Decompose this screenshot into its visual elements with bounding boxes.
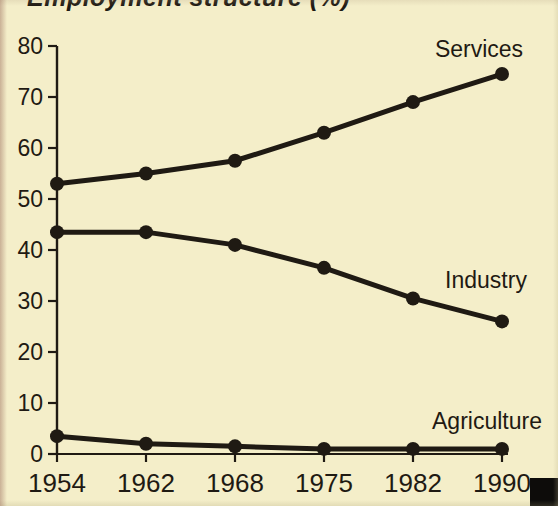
data-point-agriculture [228,439,242,453]
employment-structure-line-chart: 0102030405060708019541962196819751982199… [0,0,558,506]
y-axis-tick-label: 60 [17,135,43,161]
y-axis-tick-label: 70 [17,84,43,110]
y-axis-tick-label: 20 [17,339,43,365]
data-point-industry [495,314,509,328]
data-point-industry [139,225,153,239]
series-line-services [57,74,502,184]
x-axis-tick-label: 1982 [384,468,442,498]
data-point-services [139,167,153,181]
data-point-agriculture [495,442,509,456]
data-point-services [495,67,509,81]
y-axis-tick-label: 30 [17,288,43,314]
data-point-agriculture [317,442,331,456]
series-label-industry: Industry [445,267,527,293]
data-point-industry [50,225,64,239]
x-axis-tick-label: 1962 [117,468,175,498]
y-axis-tick-label: 40 [17,237,43,263]
x-axis-tick-label: 1954 [28,468,86,498]
y-axis-tick-label: 80 [17,33,43,59]
x-axis-tick-label: 1975 [295,468,353,498]
series-line-agriculture [57,436,502,449]
x-axis-tick-label: 1990 [473,468,531,498]
data-point-industry [228,238,242,252]
data-point-industry [406,291,420,305]
x-axis-tick-label: 1968 [206,468,264,498]
data-point-services [406,95,420,109]
series-label-agriculture: Agriculture [432,408,542,434]
data-point-agriculture [406,442,420,456]
data-point-services [228,154,242,168]
y-axis-tick-label: 0 [30,441,43,467]
data-point-agriculture [50,429,64,443]
series-line-industry [57,232,502,321]
data-point-industry [317,261,331,275]
data-point-services [317,126,331,140]
series-label-services: Services [435,36,523,62]
data-point-services [50,177,64,191]
photo-corner-block [530,478,558,506]
y-axis-tick-label: 50 [17,186,43,212]
y-axis-tick-label: 10 [17,390,43,416]
data-point-agriculture [139,437,153,451]
book-photo-chart: Employment structure (%) 010203040506070… [0,0,558,506]
